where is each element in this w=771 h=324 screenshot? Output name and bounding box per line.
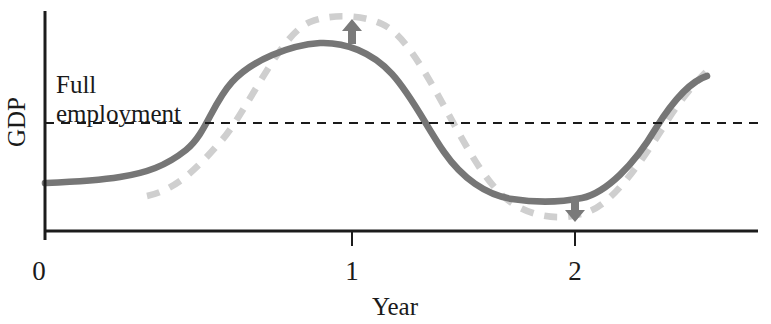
arrow-up-icon [342,19,362,44]
x-tick-label-1: 1 [345,256,359,286]
full-employment-label-line1: Full [56,71,96,98]
x-tick-label-0: 0 [32,256,46,286]
x-axis-title: Year [372,293,419,320]
y-axis-title: GDP [3,97,30,147]
x-tick-label-2: 2 [568,256,582,286]
business-cycle-chart: Full employment GDP 0 1 2 Year [0,0,771,324]
full-employment-label-line2: employment [56,100,181,127]
potential-gdp-curve [147,16,706,217]
chart-canvas: Full employment GDP 0 1 2 Year [0,0,771,324]
